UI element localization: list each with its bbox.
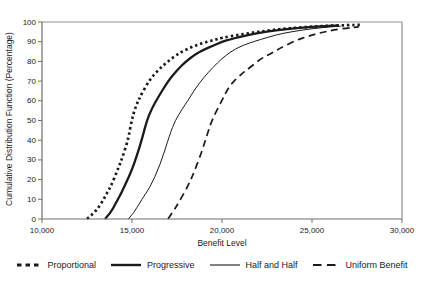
y-tick-label: 90: [27, 37, 36, 46]
plot-area: 010203040506070809010010,00015,00020,000…: [0, 0, 425, 255]
legend: ProportionalProgressiveHalf and HalfUnif…: [0, 257, 425, 273]
legend-marker-progressive-line-icon: [111, 260, 141, 270]
legend-item-uniform-benefit: Uniform Benefit: [313, 260, 408, 270]
legend-label-half-and-half: Half and Half: [246, 260, 298, 270]
series-progressive-curve: [105, 26, 339, 220]
series-uniform-benefit-curve: [168, 27, 359, 219]
legend-label-uniform-benefit: Uniform Benefit: [346, 260, 408, 270]
x-axis-title: Benefit Level: [42, 238, 402, 248]
y-tick-label: 0: [32, 215, 37, 224]
x-tick-label: 10,000: [30, 226, 55, 235]
legend-item-proportional: Proportional: [17, 260, 96, 270]
legend-label-proportional: Proportional: [47, 260, 96, 270]
legend-marker-uniform-benefit-line-icon: [313, 260, 340, 270]
y-tick-label: 80: [27, 57, 36, 66]
y-tick-label: 10: [27, 195, 36, 204]
x-tick-label: 25,000: [300, 226, 325, 235]
series-half-and-half-curve: [128, 26, 340, 219]
cdf-benefit-chart: 010203040506070809010010,00015,00020,000…: [0, 0, 425, 284]
y-axis-title: Cumulative Distribution Function (Percen…: [4, 32, 14, 206]
x-tick-label: 20,000: [210, 226, 235, 235]
y-tick-label: 40: [27, 136, 36, 145]
legend-label-progressive: Progressive: [147, 260, 195, 270]
y-tick-label: 100: [23, 18, 37, 27]
series-proportional-curve: [87, 25, 361, 219]
x-tick-label: 15,000: [120, 226, 145, 235]
y-tick-label: 50: [27, 116, 36, 125]
legend-marker-half-and-half-line-icon: [210, 260, 240, 270]
y-tick-label: 70: [27, 77, 36, 86]
y-tick-label: 20: [27, 175, 36, 184]
y-tick-label: 30: [27, 155, 36, 164]
legend-item-half-and-half: Half and Half: [210, 260, 298, 270]
y-tick-label: 60: [27, 96, 36, 105]
legend-item-progressive: Progressive: [111, 260, 195, 270]
legend-marker-proportional-line-icon: [17, 260, 41, 270]
x-tick-label: 30,000: [390, 226, 415, 235]
